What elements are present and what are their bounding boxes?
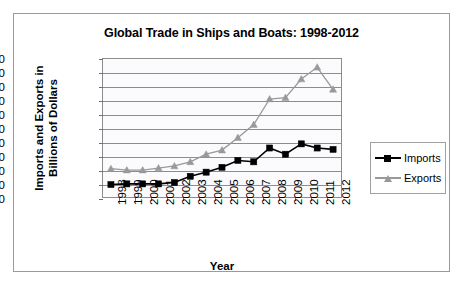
y-axis-tick-label: 60 [0, 151, 5, 163]
legend-label: Exports [404, 172, 441, 184]
series-line-exports [111, 67, 333, 170]
legend-item-imports[interactable]: Imports [375, 148, 441, 168]
data-point-imports-1999 [124, 181, 130, 187]
y-axis-tick-label: 140 [0, 95, 5, 107]
y-axis-tick-label: 200 [0, 53, 5, 65]
chart-title: Global Trade in Ships and Boats: 1998-20… [14, 26, 449, 40]
data-point-imports-2000 [140, 181, 146, 187]
legend-label: Imports [404, 152, 441, 164]
data-point-exports-2007 [250, 121, 257, 127]
y-axis-tick-label: 180 [0, 67, 5, 79]
data-point-imports-2001 [155, 181, 161, 187]
y-axis-tick-label: 20 [0, 179, 5, 191]
data-point-imports-2005 [219, 164, 225, 170]
chart-legend: ImportsExports [370, 142, 446, 194]
data-point-imports-2010 [298, 141, 304, 147]
legend-triangle-marker-icon [384, 175, 392, 182]
legend-key-imports [375, 152, 401, 164]
plot-area: 020406080100120140160180200 199819992000… [102, 58, 342, 198]
data-point-imports-1998 [108, 182, 114, 188]
y-axis-tick-label: 0 [0, 193, 5, 205]
y-axis-title: Imports and Exports in Billions of Dolla… [32, 58, 62, 198]
data-point-exports-2003 [187, 158, 194, 164]
data-point-exports-2011 [314, 64, 321, 70]
data-point-imports-2002 [171, 179, 177, 185]
legend-item-exports[interactable]: Exports [375, 168, 441, 188]
y-axis-tick-label: 80 [0, 137, 5, 149]
data-point-imports-2012 [330, 146, 336, 152]
data-point-imports-2009 [282, 151, 288, 157]
data-point-imports-2011 [314, 145, 320, 151]
series-layer [103, 59, 341, 197]
data-point-imports-2003 [187, 173, 193, 179]
y-axis-tick-label: 40 [0, 165, 5, 177]
y-axis-tick-label: 100 [0, 123, 5, 135]
legend-square-marker-icon [384, 155, 391, 162]
y-axis-tick-label: 160 [0, 81, 5, 93]
y-axis-tick-label: 120 [0, 109, 5, 121]
legend-key-exports [375, 172, 401, 184]
data-point-imports-2007 [251, 159, 257, 165]
data-point-imports-2008 [267, 145, 273, 151]
y-axis-tick-mark [99, 199, 103, 200]
y-axis-title-line-2: Billions of Dollars [46, 58, 60, 198]
data-point-imports-2006 [235, 157, 241, 163]
y-axis-title-line-1: Imports and Exports in [32, 58, 46, 198]
chart-frame: Global Trade in Ships and Boats: 1998-20… [13, 13, 450, 272]
x-axis-tick-label: 2012 [340, 179, 352, 205]
x-axis-title: Year [102, 260, 342, 272]
data-point-imports-2004 [203, 169, 209, 175]
